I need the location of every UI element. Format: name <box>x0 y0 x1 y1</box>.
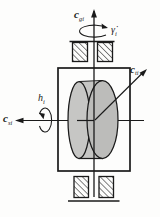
bearing-block-bottom-left <box>74 177 89 198</box>
bearing-block-bottom-right <box>99 177 114 198</box>
gimbal-axis-label: cgi <box>74 8 84 22</box>
bearing-block-top-left <box>73 43 88 62</box>
momentum-label: hi <box>38 92 45 105</box>
linework-group <box>17 11 144 201</box>
cmg-diagram-canvas: cgi γ̇i csi hi cti <box>0 0 160 217</box>
transverse-axis-label: cti <box>130 63 139 77</box>
spin-axis-label: csi <box>3 112 12 126</box>
bearing-block-top-right <box>98 43 113 62</box>
gimbal-rate-arrowhead-icon <box>100 23 109 30</box>
figure-stage: cgi γ̇i csi hi cti <box>0 0 160 217</box>
rotor-disk <box>68 81 118 159</box>
rotor-face <box>87 81 118 159</box>
gimbal-rate-label: γ̇i <box>111 24 118 37</box>
rotor-spin-arrowhead-icon <box>37 111 46 119</box>
spin-axis-arrowhead-icon <box>15 118 24 124</box>
gimbal-axis-arrowhead-icon <box>91 9 97 18</box>
